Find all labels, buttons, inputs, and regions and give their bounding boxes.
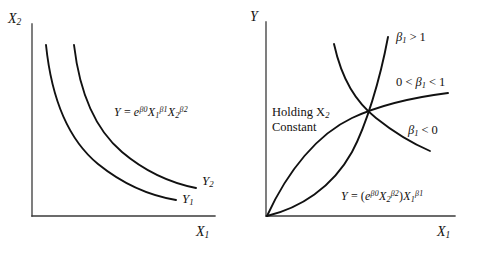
annotation-beta-greater-than-one: β1>1 [396,31,426,44]
holding-note-line-1: Holding X2 [272,105,329,119]
annotation-beta-less-than-zero: β1<0 [408,124,438,137]
isoquant-upper-label: Y2 [202,174,214,189]
right-panel-y-axis-label: Y [250,10,258,24]
left-panel-equation: Y=eβ0X1β1X2β2 [114,106,188,120]
right-panel-x-axis-label: X1 [437,225,450,241]
left-panel-x-axis-label: X1 [196,225,209,241]
left-panel-y-axis-label: X2 [8,12,21,28]
figure-canvas: X2 X1 Y=eβ0X1β1X2β2 Y2 Y1 Y X1 Holding X… [0,0,483,255]
holding-note-line-2: Constant [272,120,316,134]
annotation-beta-between-zero-and-one: 0 <β1<1 [396,76,445,89]
holding-constant-note: Holding X2 Constant [272,105,329,135]
isoquant-lower-curve [46,45,176,200]
isoquant-lower-label: Y1 [182,192,194,207]
right-panel-equation: Y=(eβ0X2β2)X1β1 [341,190,423,204]
